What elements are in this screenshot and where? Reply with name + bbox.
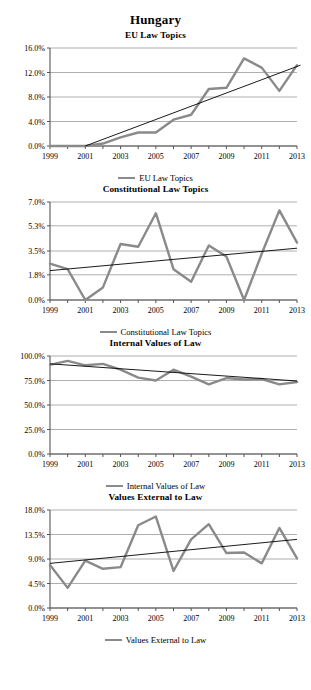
legend-label: Values External to Law: [126, 635, 206, 645]
y-tick-label: 0.0%: [28, 142, 45, 151]
legend-swatch-icon: [118, 177, 135, 180]
y-tick-label: 13.5%: [24, 531, 45, 540]
x-tick-label: 2003: [113, 152, 129, 161]
y-tick-label: 16.0%: [24, 44, 45, 53]
chart-title: Constitutional Law Topics: [0, 183, 311, 196]
x-tick-label: 2003: [113, 306, 129, 315]
chart-plot-area: 0.0%25.0%50.0%75.0%100.0%199920012003200…: [0, 350, 311, 480]
chart-legend: Values External to Law: [0, 634, 311, 645]
x-tick-label: 2011: [254, 460, 270, 469]
chart-title: EU Law Topics: [0, 29, 311, 42]
trendline: [50, 539, 297, 563]
y-tick-label: 4.5%: [28, 580, 45, 589]
chart-block-constitutional-law-topics: Constitutional Law Topics 0.0%1.8%3.5%5.…: [0, 183, 311, 337]
x-tick-label: 2003: [113, 460, 129, 469]
chart-svg: 0.0%1.8%3.5%5.3%7.0%19992001200320052007…: [0, 196, 311, 326]
chart-plot-area: 0.0%1.8%3.5%5.3%7.0%19992001200320052007…: [0, 196, 311, 326]
x-tick-label: 2001: [77, 306, 93, 315]
y-tick-label: 18.0%: [24, 506, 45, 515]
x-tick-label: 1999: [42, 614, 58, 623]
chart-plot-area: 0.0%4.5%9.0%13.5%18.0%199920012003200520…: [0, 504, 311, 634]
chart-legend: EU Law Topics: [0, 172, 311, 183]
legend-label: Constitutional Law Topics: [121, 327, 212, 337]
y-tick-label: 1.8%: [28, 271, 45, 280]
x-tick-label: 2001: [77, 152, 93, 161]
chart-legend: Constitutional Law Topics: [0, 326, 311, 337]
data-line: [50, 210, 297, 300]
legend-swatch-icon: [100, 331, 117, 334]
trendline: [50, 364, 297, 381]
x-tick-label: 2009: [218, 460, 234, 469]
x-tick-label: 2001: [77, 460, 93, 469]
x-tick-label: 2007: [183, 614, 199, 623]
x-tick-label: 2005: [148, 306, 164, 315]
x-tick-label: 2003: [113, 614, 129, 623]
y-tick-label: 0.0%: [28, 296, 45, 305]
x-tick-label: 2011: [254, 306, 270, 315]
x-tick-label: 2011: [254, 614, 270, 623]
page-root: Hungary EU Law Topics 0.0%4.0%8.0%12.0%1…: [0, 0, 311, 690]
x-tick-label: 2011: [254, 152, 270, 161]
y-tick-label: 100.0%: [20, 352, 45, 361]
chart-title: Internal Values of Law: [0, 337, 311, 350]
chart-legend: Internal Values of Law: [0, 480, 311, 491]
page-title: Hungary: [0, 0, 311, 29]
y-tick-label: 75.0%: [24, 377, 45, 386]
x-tick-label: 2009: [218, 306, 234, 315]
y-tick-label: 4.0%: [28, 118, 45, 127]
y-tick-label: 9.0%: [28, 555, 45, 564]
x-tick-label: 2005: [148, 614, 164, 623]
data-line: [50, 517, 297, 588]
x-tick-label: 2007: [183, 306, 199, 315]
chart-svg: 0.0%25.0%50.0%75.0%100.0%199920012003200…: [0, 350, 311, 480]
legend-swatch-icon: [106, 485, 123, 488]
x-tick-label: 1999: [42, 306, 58, 315]
x-tick-label: 2001: [77, 614, 93, 623]
chart-block-values-external-to-law: Values External to Law 0.0%4.5%9.0%13.5%…: [0, 491, 311, 645]
y-tick-label: 50.0%: [24, 401, 45, 410]
y-tick-label: 25.0%: [24, 426, 45, 435]
trendline: [85, 65, 300, 146]
x-tick-label: 2009: [218, 152, 234, 161]
y-tick-label: 0.0%: [28, 450, 45, 459]
chart-plot-area: 0.0%4.0%8.0%12.0%16.0%199920012003200520…: [0, 42, 311, 172]
data-line: [50, 58, 297, 146]
legend-swatch-icon: [105, 639, 122, 642]
y-tick-label: 12.0%: [24, 69, 45, 78]
legend-label: EU Law Topics: [139, 173, 193, 183]
y-tick-label: 7.0%: [28, 198, 45, 207]
legend-label: Internal Values of Law: [127, 481, 205, 491]
x-tick-label: 2005: [148, 152, 164, 161]
y-tick-label: 5.3%: [28, 222, 45, 231]
chart-block-internal-values-of-law: Internal Values of Law 0.0%25.0%50.0%75.…: [0, 337, 311, 491]
x-tick-label: 2013: [289, 614, 305, 623]
x-tick-label: 2005: [148, 460, 164, 469]
y-tick-label: 8.0%: [28, 93, 45, 102]
x-tick-label: 2013: [289, 306, 305, 315]
x-tick-label: 1999: [42, 460, 58, 469]
chart-svg: 0.0%4.5%9.0%13.5%18.0%199920012003200520…: [0, 504, 311, 634]
chart-block-eu-law-topics: EU Law Topics 0.0%4.0%8.0%12.0%16.0%1999…: [0, 29, 311, 183]
y-tick-label: 0.0%: [28, 604, 45, 613]
x-tick-label: 2013: [289, 460, 305, 469]
x-tick-label: 1999: [42, 152, 58, 161]
chart-svg: 0.0%4.0%8.0%12.0%16.0%199920012003200520…: [0, 42, 311, 172]
x-tick-label: 2009: [218, 614, 234, 623]
x-tick-label: 2013: [289, 152, 305, 161]
chart-title: Values External to Law: [0, 491, 311, 504]
x-tick-label: 2007: [183, 152, 199, 161]
x-tick-label: 2007: [183, 460, 199, 469]
y-tick-label: 3.5%: [28, 247, 45, 256]
